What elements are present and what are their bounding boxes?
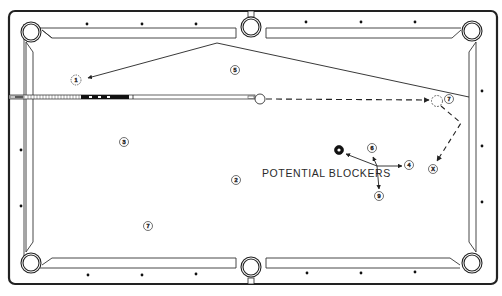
rail-diamonds: [20, 21, 484, 277]
balls: 1 5 3 2 7 7 6: [71, 66, 454, 231]
ghost-cue-ball: [432, 96, 443, 107]
svg-text:3: 3: [122, 139, 125, 145]
cushions: [26, 28, 476, 268]
potential-blockers-label: POTENTIAL BLOCKERS: [262, 167, 391, 179]
ghost-ball-1: 1: [71, 75, 81, 85]
cue-ball-path: [266, 99, 429, 100]
pockets: [21, 11, 482, 284]
ball-7-table: 7: [144, 222, 153, 231]
pocket-top-side: [241, 11, 261, 37]
ball-2: 2: [232, 176, 241, 185]
pocket-bottom-right: [462, 253, 482, 273]
pocket-bottom-left: [21, 253, 41, 273]
svg-text:7: 7: [447, 96, 450, 102]
object-ball-path: [88, 43, 469, 97]
pocket-top-right: [462, 21, 482, 41]
pocket-top-left: [21, 22, 41, 42]
cue-ball: [255, 94, 265, 104]
svg-text:X: X: [431, 166, 435, 172]
svg-text:5: 5: [233, 67, 236, 73]
ball-4: 4: [405, 161, 414, 170]
svg-text:1: 1: [74, 77, 77, 83]
ball-6: 6: [368, 144, 377, 153]
table-frame: [9, 11, 497, 284]
blocker-arrow-8: [346, 154, 377, 166]
svg-text:7: 7: [146, 223, 149, 229]
ball-8: [335, 146, 344, 155]
ball-7-target: 7: [445, 95, 454, 104]
svg-text:2: 2: [234, 177, 237, 183]
ball-x: X: [429, 165, 438, 174]
ball-3: 3: [120, 138, 129, 147]
cue-ball-deflection-path: [437, 106, 461, 161]
cue-stick: [9, 95, 255, 99]
svg-text:4: 4: [407, 162, 410, 168]
svg-text:6: 6: [370, 145, 373, 151]
ball-5: 5: [231, 66, 240, 75]
ball-9: 9: [375, 192, 384, 201]
pool-table-diagram: 1 5 3 2 7 7 6: [0, 0, 502, 296]
pocket-bottom-side: [241, 257, 261, 284]
svg-text:9: 9: [377, 193, 380, 199]
